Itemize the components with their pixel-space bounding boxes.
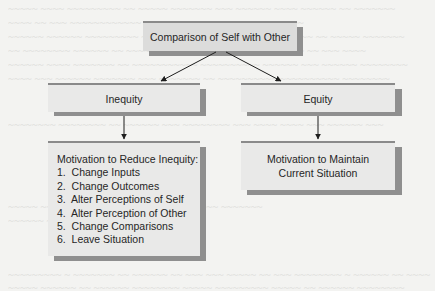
edge-comparison-to-equity: [226, 52, 281, 81]
edge-comparison-to-inequity: [161, 52, 216, 81]
diagram-edges: [0, 0, 435, 291]
